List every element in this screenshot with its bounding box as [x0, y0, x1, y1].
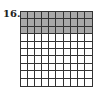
- grid-cell: [64, 71, 71, 78]
- grid-cell-shaded: [42, 12, 49, 19]
- grid-cell: [42, 49, 49, 56]
- grid-cell-shaded: [49, 19, 56, 26]
- grid-cell-shaded: [71, 12, 78, 19]
- grid-cell-shaded: [78, 19, 85, 26]
- grid-cell-shaded: [78, 27, 85, 34]
- grid-cell-shaded: [42, 27, 49, 34]
- grid-cell-shaded: [49, 12, 56, 19]
- grid-cell: [78, 42, 85, 49]
- grid-cell: [21, 34, 28, 41]
- grid-cell: [64, 42, 71, 49]
- grid-cell: [21, 56, 28, 63]
- grid-cell-shaded: [56, 19, 63, 26]
- grid-cell: [42, 71, 49, 78]
- grid-cell-shaded: [21, 12, 28, 19]
- grid-cell: [56, 56, 63, 63]
- grid-cell-shaded: [71, 19, 78, 26]
- grid-cell-shaded: [85, 12, 92, 19]
- grid-cell: [28, 34, 35, 41]
- grid-cell-shaded: [21, 27, 28, 34]
- grid-cell: [35, 79, 42, 86]
- grid-cell: [85, 49, 92, 56]
- problem-number: 16.: [3, 8, 20, 19]
- grid-cell-shaded: [85, 27, 92, 34]
- grid-cell-shaded: [21, 19, 28, 26]
- grid-cell: [71, 34, 78, 41]
- grid-cell: [28, 56, 35, 63]
- grid-cell: [56, 49, 63, 56]
- grid-cell: [56, 79, 63, 86]
- grid-cell: [78, 71, 85, 78]
- grid-cell: [56, 42, 63, 49]
- grid-cell: [85, 56, 92, 63]
- grid-cell: [78, 34, 85, 41]
- grid-cell-shaded: [56, 27, 63, 34]
- grid-cell: [85, 64, 92, 71]
- grid-cell: [49, 49, 56, 56]
- grid-cell: [35, 49, 42, 56]
- grid-cell: [49, 79, 56, 86]
- hundred-grid: [20, 11, 93, 87]
- grid-cell: [71, 42, 78, 49]
- grid-cell: [28, 79, 35, 86]
- grid-cell: [78, 64, 85, 71]
- grid-cell: [71, 71, 78, 78]
- grid-cell: [35, 34, 42, 41]
- grid-cell: [35, 71, 42, 78]
- grid-cell: [78, 56, 85, 63]
- grid-cell: [71, 64, 78, 71]
- grid-cell: [56, 71, 63, 78]
- grid-cell-shaded: [64, 27, 71, 34]
- grid-cell: [42, 79, 49, 86]
- grid-cell-shaded: [85, 19, 92, 26]
- grid-cell: [42, 64, 49, 71]
- grid-cell-shaded: [35, 12, 42, 19]
- grid-cell: [28, 42, 35, 49]
- grid-cell: [35, 64, 42, 71]
- grid-cell: [21, 79, 28, 86]
- grid-cell: [35, 42, 42, 49]
- grid-cell: [78, 49, 85, 56]
- grid-cell: [35, 56, 42, 63]
- grid-cell: [42, 42, 49, 49]
- grid-cell-shaded: [28, 12, 35, 19]
- grid-cell: [49, 34, 56, 41]
- grid-cell-shaded: [56, 12, 63, 19]
- grid-cell: [85, 71, 92, 78]
- grid-cell: [21, 49, 28, 56]
- grid-cell: [49, 71, 56, 78]
- grid-cell: [64, 56, 71, 63]
- grid-cell: [71, 49, 78, 56]
- grid-cell: [28, 49, 35, 56]
- grid-cell-shaded: [64, 19, 71, 26]
- grid-cell: [71, 79, 78, 86]
- grid-cell: [42, 34, 49, 41]
- grid-cell: [85, 34, 92, 41]
- grid-cell: [49, 64, 56, 71]
- grid-cell: [56, 34, 63, 41]
- grid-cell: [49, 42, 56, 49]
- grid-cell-shaded: [49, 27, 56, 34]
- grid-cell: [56, 64, 63, 71]
- grid-cell: [64, 79, 71, 86]
- grid-cell-shaded: [71, 27, 78, 34]
- grid-cell: [78, 79, 85, 86]
- grid-cell-shaded: [42, 19, 49, 26]
- grid-cell: [21, 64, 28, 71]
- grid-cell: [64, 34, 71, 41]
- grid-cell: [28, 64, 35, 71]
- grid-cell: [28, 71, 35, 78]
- grid-cell: [85, 42, 92, 49]
- grid-cell: [64, 49, 71, 56]
- grid-cell: [85, 79, 92, 86]
- grid-cell-shaded: [35, 19, 42, 26]
- grid-cell: [49, 56, 56, 63]
- grid-cell-shaded: [28, 19, 35, 26]
- grid-cell-shaded: [28, 27, 35, 34]
- grid-cell: [71, 56, 78, 63]
- grid-cell: [64, 64, 71, 71]
- grid-cell: [42, 56, 49, 63]
- grid-cell-shaded: [64, 12, 71, 19]
- grid-cell-shaded: [78, 12, 85, 19]
- grid-cell: [21, 71, 28, 78]
